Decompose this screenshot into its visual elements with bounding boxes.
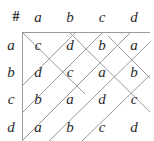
table-cell-r3c1: b (22, 86, 54, 113)
table-cell-r2c1: d (22, 59, 54, 86)
row-header-4: d (0, 114, 22, 141)
table-cell-r2c4: b (118, 59, 150, 86)
row-header-3: c (0, 86, 22, 113)
table-cell-r1c2: d (54, 32, 86, 59)
row-header-1: a (0, 32, 22, 59)
table-cell-r2c3: a (86, 59, 118, 86)
row-header-2: b (0, 59, 22, 86)
table-cell-r1c3: b (86, 32, 118, 59)
table-cell-r3c4: c (118, 86, 150, 113)
table-cell-r4c2: b (54, 114, 86, 141)
table-cell-r4c1: a (22, 114, 54, 141)
table-cell-r3c3: d (86, 86, 118, 113)
table-cell-r3c2: a (54, 86, 86, 113)
column-header-1: a (22, 6, 54, 28)
table-cell-r1c1: c (22, 32, 54, 59)
table-row-header-column: a b c d (0, 32, 22, 141)
table-cell-r4c3: c (86, 114, 118, 141)
table-header-row: # a b c d (0, 6, 154, 28)
column-header-3: c (86, 6, 118, 28)
table-cell-r2c2: c (54, 59, 86, 86)
table-cells: c d b a d c a b b a d c a b c d (22, 32, 150, 141)
table-cell-r4c4: d (118, 114, 150, 141)
table-body-box: c d b a d c a b b a d c a b c d (22, 32, 150, 141)
table-cell-r1c4: a (118, 32, 150, 59)
column-header-4: d (118, 6, 150, 28)
cayley-table-figure: # a b c d a b c d c (0, 0, 154, 141)
column-header-2: b (54, 6, 86, 28)
